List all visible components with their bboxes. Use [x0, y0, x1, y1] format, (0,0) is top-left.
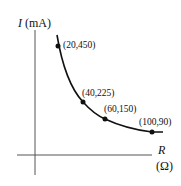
point-label: (100,90) [139, 118, 171, 128]
data-point [103, 117, 108, 122]
i-vs-r-diagram: I (mA) (20,450) (40,225) (60,150) (100,9… [0, 0, 181, 186]
x-axis-unit: (Ω) [156, 160, 173, 172]
point-label: (60,150) [104, 105, 136, 115]
x-axis-label: R [158, 144, 165, 156]
data-point [81, 100, 86, 105]
point-label: (40,225) [82, 89, 114, 99]
y-axis-label: I (mA) [18, 17, 51, 29]
data-point [56, 44, 61, 49]
data-point [150, 130, 155, 135]
point-label: (20,450) [63, 41, 95, 51]
